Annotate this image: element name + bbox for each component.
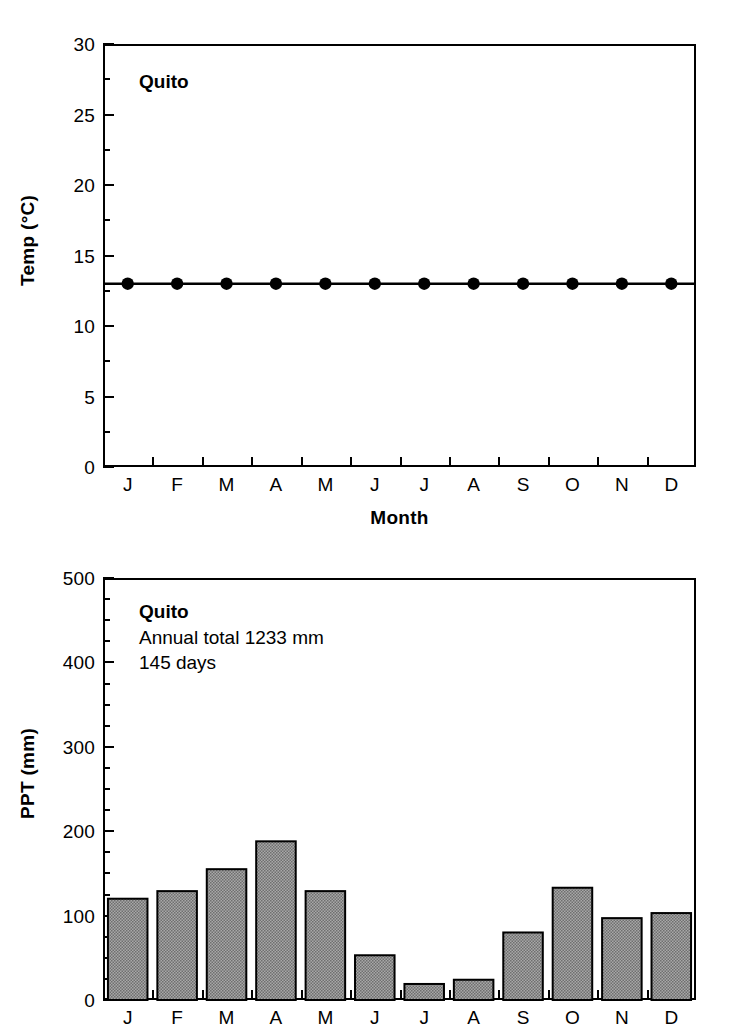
x-tick-label-m-4: M (317, 475, 333, 494)
x-major-tick (350, 990, 352, 1000)
x-major-tick (647, 990, 649, 1000)
x-major-tick (301, 457, 303, 467)
x-major-tick (251, 990, 253, 1000)
x-major-tick (498, 457, 500, 467)
x-tick-label-j-6: J (419, 1008, 429, 1027)
x-major-tick (548, 990, 550, 1000)
x-tick-label-n-10: N (615, 1008, 629, 1027)
x-tick-label-m-4: M (317, 1008, 333, 1027)
x-tick-label-d-11: D (664, 1008, 678, 1027)
x-tick-label-j-6: J (419, 475, 429, 494)
x-major-tick (597, 990, 599, 1000)
x-tick-label-s-8: S (517, 475, 530, 494)
x-major-tick (400, 457, 402, 467)
x-major-tick (548, 457, 550, 467)
temperature-x-axis: JFMAMJJASOND (0, 0, 736, 507)
x-major-tick (498, 990, 500, 1000)
x-major-tick (350, 457, 352, 467)
x-tick-label-m-2: M (219, 475, 235, 494)
x-tick-label-j-0: J (123, 1008, 133, 1027)
x-tick-label-a-3: A (270, 1008, 283, 1027)
x-tick-label-o-9: O (565, 475, 580, 494)
x-major-tick (152, 457, 154, 467)
x-major-tick (202, 457, 204, 467)
x-tick-label-j-5: J (370, 1008, 380, 1027)
x-major-tick (152, 990, 154, 1000)
x-major-tick (202, 990, 204, 1000)
x-tick-label-n-10: N (615, 475, 629, 494)
x-tick-label-j-0: J (123, 475, 133, 494)
x-tick-label-f-1: F (171, 475, 183, 494)
x-major-tick (597, 457, 599, 467)
precipitation-x-axis: JFMAMJJASOND (0, 540, 736, 1028)
x-tick-label-a-3: A (270, 475, 283, 494)
x-tick-label-f-1: F (171, 1008, 183, 1027)
x-tick-label-o-9: O (565, 1008, 580, 1027)
x-major-tick (251, 457, 253, 467)
temperature-panel: 051015202530 Temp (°C) Quito JFMAMJJASON… (0, 0, 736, 520)
x-tick-label-m-2: M (219, 1008, 235, 1027)
x-major-tick (400, 990, 402, 1000)
precipitation-panel: 0100200300400500 PPT (mm) Quito Annual t… (0, 540, 736, 1028)
x-tick-label-a-7: A (467, 1008, 480, 1027)
x-tick-label-d-11: D (664, 475, 678, 494)
x-tick-label-j-5: J (370, 475, 380, 494)
climate-diagram-figure: 051015202530 Temp (°C) Quito JFMAMJJASON… (0, 0, 736, 1028)
x-major-tick (301, 990, 303, 1000)
x-tick-label-a-7: A (467, 475, 480, 494)
x-major-tick (647, 457, 649, 467)
x-tick-label-s-8: S (517, 1008, 530, 1027)
x-major-tick (449, 457, 451, 467)
x-major-tick (449, 990, 451, 1000)
temperature-x-axis-title: Month (103, 507, 696, 529)
